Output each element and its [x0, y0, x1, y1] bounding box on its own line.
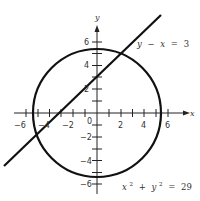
x-axis-label: x — [190, 109, 195, 118]
x-tick-label: 6 — [165, 121, 170, 130]
y-tick-label: −4 — [80, 157, 92, 166]
y-tick-label: −6 — [80, 180, 92, 189]
x-tick-label: −4 — [38, 121, 50, 130]
origin-label: 0 — [87, 117, 92, 126]
y-tick-label: 2 — [84, 85, 89, 94]
circle-equation-label: x 2 + y 2 = 29 — [122, 178, 192, 192]
line-equation-label: y − x = 3 — [136, 39, 189, 49]
x-tick-label: −6 — [14, 121, 26, 130]
x-tick-label: 2 — [118, 121, 123, 130]
y-axis — [92, 25, 102, 194]
x-axis-arrow-icon — [183, 111, 190, 116]
y-axis-arrow-icon — [95, 25, 100, 32]
y-tick-label: 4 — [84, 61, 89, 70]
y-axis-label: y — [94, 13, 100, 22]
y-tick-label: −2 — [80, 133, 92, 142]
line-curve — [4, 15, 161, 166]
x-axis — [14, 109, 190, 117]
x-tick-label: 4 — [141, 121, 146, 130]
diagram-canvas: x y 0 −6 −4 −2 2 4 6 6 4 2 −2 −4 −6 y − … — [0, 0, 200, 201]
x-tick-label: −2 — [62, 121, 74, 130]
y-tick-label: 6 — [84, 38, 89, 47]
